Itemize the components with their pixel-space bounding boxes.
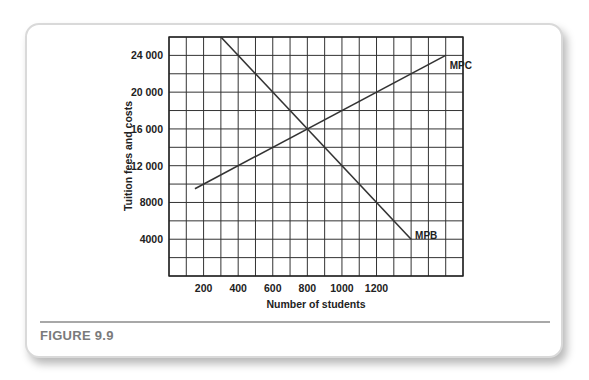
x-tick-label: 800	[299, 282, 317, 294]
y-tick-label: 24 000	[131, 49, 163, 61]
x-axis-title: Number of students	[266, 298, 365, 310]
x-axis-ticks: 20040060080010001200	[195, 282, 389, 294]
x-tick-label: 600	[264, 282, 282, 294]
y-axis-title: Tuition fees and costs	[122, 101, 134, 211]
y-tick-label: 16 000	[131, 123, 163, 135]
figure-caption: FIGURE 9.9	[40, 328, 114, 343]
x-tick-label: 400	[229, 282, 247, 294]
series-mpc-label: MPC	[450, 60, 472, 71]
y-tick-label: 4000	[140, 233, 164, 245]
chart-series: MPCMPB	[195, 37, 472, 241]
x-tick-label: 200	[195, 282, 213, 294]
y-axis-ticks: 4000800012 00016 00020 00024 000	[131, 49, 163, 245]
y-tick-label: 8000	[140, 196, 164, 208]
y-tick-label: 20 000	[131, 86, 163, 98]
series-mpb-label: MPB	[415, 230, 437, 241]
series-mpc-line	[195, 55, 446, 188]
x-tick-label: 1000	[330, 282, 354, 294]
x-tick-label: 1200	[365, 282, 389, 294]
caption-divider	[40, 321, 550, 323]
series-mpb-line	[221, 37, 411, 239]
y-tick-label: 12 000	[131, 160, 163, 172]
chart: 4000800012 00016 00020 00024 000 2004006…	[0, 0, 589, 380]
